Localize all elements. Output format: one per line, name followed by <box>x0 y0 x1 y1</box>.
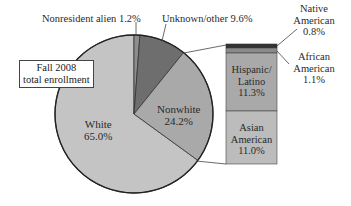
leader-african <box>277 51 289 64</box>
label-value: 0.8% <box>289 26 339 38</box>
label-white: White 65.0% <box>84 118 112 142</box>
label-text: American <box>289 15 339 27</box>
bar-native-american <box>226 44 277 48</box>
label-unknown-other: Unknown/other 9.6% <box>162 13 252 25</box>
label-text: American <box>289 63 339 75</box>
label-value: 11.0% <box>226 145 277 157</box>
label-text: Nonresident alien 1.2% <box>42 13 141 24</box>
connector-top <box>184 45 226 53</box>
label-african-american: African American 1.1% <box>289 51 339 86</box>
label-nonresident-alien: Nonresident alien 1.2% <box>42 13 141 25</box>
label-text: Unknown/other 9.6% <box>162 13 252 24</box>
label-text: Nonwhite <box>157 103 200 115</box>
label-text: Native <box>289 3 339 15</box>
label-value: 11.3% <box>229 87 274 99</box>
label-nonwhite: Nonwhite 24.2% <box>157 103 200 127</box>
label-asian-american: Asian American 11.0% <box>226 122 277 157</box>
label-text: Hispanic/ <box>229 64 274 76</box>
label-text: White <box>84 118 112 130</box>
label-text: Asian <box>226 122 277 134</box>
leader-unknown <box>162 24 166 41</box>
bar-african-american <box>226 48 277 53</box>
chart-title-line2: total enrollment <box>23 74 90 86</box>
label-text: Latino <box>229 76 274 88</box>
chart-title-box: Fall 2008 total enrollment <box>19 60 94 88</box>
label-text: American <box>226 134 277 146</box>
label-value: 1.1% <box>289 74 339 86</box>
label-value: 24.2% <box>157 115 200 127</box>
label-native-american: Native American 0.8% <box>289 3 339 38</box>
chart-title-line1: Fall 2008 <box>23 62 90 74</box>
label-value: 65.0% <box>84 130 112 142</box>
label-text: African <box>289 51 339 63</box>
connector-bottom <box>196 161 226 164</box>
label-hispanic-latino: Hispanic/ Latino 11.3% <box>229 64 274 99</box>
